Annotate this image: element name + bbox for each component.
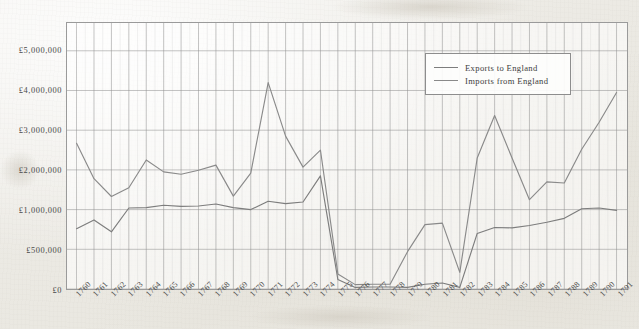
- y-tick-label: £1,000,000: [0, 206, 62, 215]
- legend-label-exports: Exports to England: [465, 63, 538, 73]
- y-axis: £0£500,000£1,000,000£2,000,000£3,000,000…: [0, 22, 62, 290]
- line-chart-figure: £0£500,000£1,000,000£2,000,000£3,000,000…: [0, 0, 639, 329]
- y-tick-label: £4,000,000: [0, 86, 62, 95]
- y-tick-label: £0: [0, 286, 62, 295]
- chart-page: £0£500,000£1,000,000£2,000,000£3,000,000…: [0, 0, 639, 329]
- series-line-0: [77, 176, 617, 288]
- y-tick-label: £5,000,000: [0, 46, 62, 55]
- y-tick-label: £2,000,000: [0, 166, 62, 175]
- legend-label-imports: Imports from England: [465, 76, 548, 86]
- series-line-1: [77, 83, 617, 285]
- chart-legend: Exports to England Imports from England: [425, 53, 571, 95]
- legend-swatch-exports: [434, 67, 458, 68]
- y-tick-label: £3,000,000: [0, 126, 62, 135]
- legend-item-exports: Exports to England: [434, 61, 561, 74]
- legend-swatch-imports: [434, 80, 458, 81]
- y-tick-label: £500,000: [0, 246, 62, 255]
- x-axis: 1760176117621763176417651766176717681769…: [66, 292, 628, 329]
- legend-item-imports: Imports from England: [434, 74, 561, 87]
